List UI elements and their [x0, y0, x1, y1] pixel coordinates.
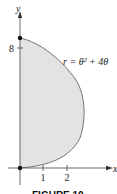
x-tick-label-2: 2	[65, 172, 70, 183]
point-top	[18, 36, 22, 40]
curve-equation-label: r = θ² + 4θ	[63, 56, 108, 67]
y-tick-label-8: 8	[9, 43, 14, 54]
x-axis-arrow-icon	[106, 166, 113, 170]
point-origin	[18, 166, 22, 170]
x-axis-label: x	[112, 163, 117, 174]
y-axis-label: y	[15, 3, 21, 14]
figure-caption: FIGURE 10	[32, 190, 84, 194]
x-tick-label-1: 1	[41, 172, 46, 183]
polar-area-figure: y x 8 1 2 r = θ² + 4θ FIGURE 10	[0, 0, 117, 194]
